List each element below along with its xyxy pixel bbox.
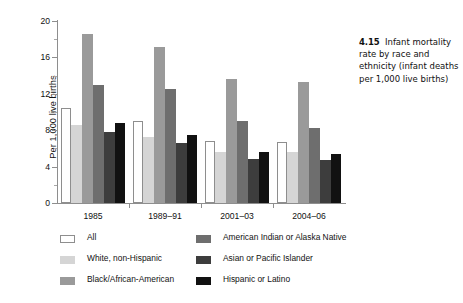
x-tick-label: 2001–03 xyxy=(201,211,273,221)
figure-number: 4.15 xyxy=(359,37,380,47)
bar xyxy=(320,160,331,203)
bar xyxy=(331,154,342,203)
x-tick-label: 1989–91 xyxy=(129,211,201,221)
legend-label: White, non-Hispanic xyxy=(87,253,162,263)
x-tick-mark xyxy=(201,203,202,208)
chart-legend: AllWhite, non-HispanicBlack/African-Amer… xyxy=(60,232,450,294)
bar xyxy=(104,132,115,203)
y-tick-label: 4 xyxy=(10,162,50,172)
x-tick-mark xyxy=(129,203,130,208)
bar xyxy=(165,89,176,203)
plot-area xyxy=(57,21,345,203)
bar xyxy=(205,141,216,203)
y-tick-label: 12 xyxy=(10,89,50,99)
bar xyxy=(133,121,144,203)
x-tick-label: 2004–06 xyxy=(273,211,345,221)
legend-label: American Indian or Alaska Native xyxy=(223,232,346,242)
legend-label: Hispanic or Latino xyxy=(223,274,290,284)
bar xyxy=(237,121,248,203)
bar xyxy=(176,143,187,203)
legend-swatch xyxy=(60,235,75,243)
figure-infant-mortality-chart: Per 1,000 live births 048121620 19851989… xyxy=(0,0,463,303)
y-tick-mark xyxy=(52,203,57,204)
bar xyxy=(215,152,226,203)
y-tick-label: 16 xyxy=(10,52,50,62)
legend-label: All xyxy=(87,232,96,242)
bar xyxy=(259,152,270,203)
legend-swatch xyxy=(196,277,211,285)
x-tick-mark xyxy=(273,203,274,208)
y-tick-label: 0 xyxy=(10,198,50,208)
legend-label: Asian or Pacific Islander xyxy=(223,253,313,263)
figure-caption: 4.15 Infant mortality rate by race and e… xyxy=(359,36,463,85)
legend-swatch xyxy=(60,277,75,285)
bar xyxy=(309,128,320,203)
legend-swatch xyxy=(196,235,211,243)
bar xyxy=(143,137,154,203)
bar xyxy=(93,85,104,203)
bar xyxy=(61,108,72,203)
legend-swatch xyxy=(196,256,211,264)
bar xyxy=(287,152,298,203)
y-tick-label: 8 xyxy=(10,125,50,135)
bar xyxy=(277,142,288,203)
bar xyxy=(154,47,165,203)
x-tick-label: 1985 xyxy=(57,211,129,221)
bar xyxy=(298,82,309,203)
legend-swatch xyxy=(60,256,75,264)
bar xyxy=(115,123,126,203)
bar xyxy=(82,34,93,203)
bar xyxy=(71,125,82,203)
y-tick-label: 20 xyxy=(10,16,50,26)
bar xyxy=(187,135,198,203)
bar xyxy=(226,79,237,203)
legend-label: Black/African-American xyxy=(87,274,174,284)
bar xyxy=(248,159,259,203)
